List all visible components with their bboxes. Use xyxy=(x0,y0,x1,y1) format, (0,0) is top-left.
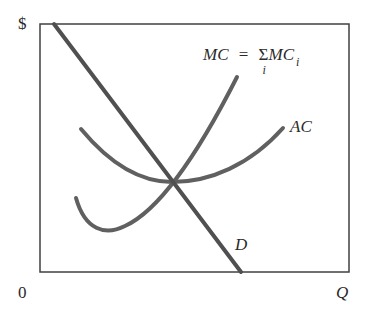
mc-rhs-subscript: i xyxy=(296,55,299,69)
sum-index: i xyxy=(263,64,266,76)
x-axis-label: Q xyxy=(336,284,348,301)
diagram-canvas xyxy=(0,0,371,320)
equals-sign: = xyxy=(239,45,249,64)
cost-demand-diagram: $ 0 Q MC = Σ i MCi AC D xyxy=(0,0,371,320)
y-axis-label: $ xyxy=(18,15,27,32)
mc-lhs: MC xyxy=(203,45,229,64)
demand-label: D xyxy=(235,236,247,253)
marginal-cost-curve xyxy=(76,77,237,230)
marginal-cost-label: MC = Σ i MCi xyxy=(203,46,297,63)
origin-label: 0 xyxy=(18,284,27,301)
plot-frame xyxy=(40,24,349,272)
average-cost-label: AC xyxy=(290,118,312,135)
sigma-symbol: Σ xyxy=(259,45,269,64)
mc-rhs: MC xyxy=(269,45,295,64)
